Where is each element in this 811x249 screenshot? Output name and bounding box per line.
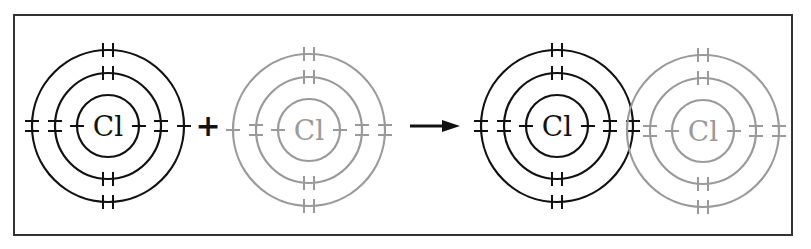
element-symbol: Cl bbox=[93, 110, 123, 143]
product-atom-2: Cl bbox=[627, 48, 786, 214]
reactant-atom-2: Cl bbox=[226, 47, 392, 213]
reactant-atom-1: Cl bbox=[25, 43, 191, 209]
diagram-canvas: ClClClCl + bbox=[0, 0, 811, 249]
element-symbol: Cl bbox=[542, 110, 572, 143]
reaction-arrow-icon bbox=[410, 120, 460, 132]
plus-sign: + bbox=[195, 108, 220, 143]
chlorine-bonding-diagram: ClClClCl + bbox=[0, 0, 811, 249]
element-symbol: Cl bbox=[294, 114, 324, 147]
element-symbol: Cl bbox=[688, 115, 718, 148]
atoms-group: ClClClCl bbox=[25, 43, 786, 214]
product-atom-1: Cl bbox=[474, 43, 640, 209]
